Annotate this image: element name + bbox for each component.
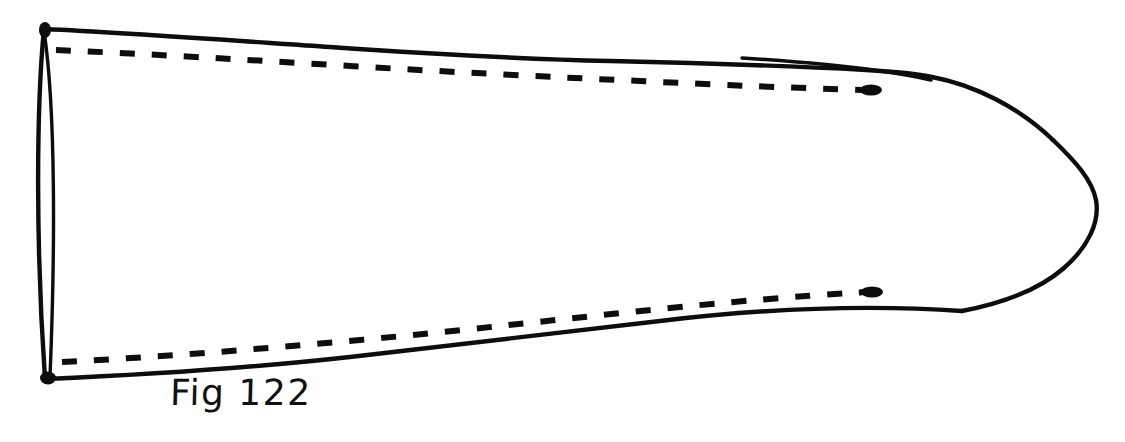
bottom-hidden-edge-dashed-path bbox=[62, 292, 866, 362]
left-opening-inner-arc bbox=[44, 31, 54, 377]
top-dash-terminus-blob bbox=[860, 85, 882, 96]
top-outline-path bbox=[44, 29, 1053, 140]
figure-caption: Fig 122 bbox=[170, 375, 313, 411]
bottom-outline-path bbox=[46, 308, 962, 379]
hand-drawn-figure bbox=[0, 0, 1125, 442]
nose-dome-path bbox=[962, 140, 1097, 311]
bottom-left-corner-blob bbox=[40, 372, 56, 385]
figure-page: Fig 122 bbox=[0, 0, 1125, 442]
left-opening-outer-arc bbox=[38, 29, 45, 379]
bottom-dash-terminus-blob bbox=[861, 287, 883, 298]
top-left-corner-blob bbox=[39, 22, 51, 38]
